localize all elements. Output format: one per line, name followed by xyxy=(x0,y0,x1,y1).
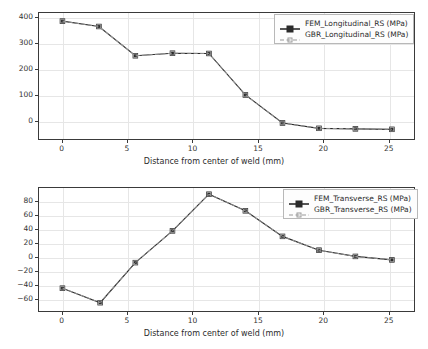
y-axis-tick-mark xyxy=(35,285,38,286)
y-axis-tick-mark xyxy=(35,43,38,44)
x-axis-tick-mark xyxy=(192,140,193,143)
y-axis-tick-mark xyxy=(35,229,38,230)
legend-item-gbr-transverse: GBR_Transverse_RS (MPa) xyxy=(288,204,412,215)
x-axis-tick-label: 5 xyxy=(125,317,130,325)
y-axis-tick-label: 200 xyxy=(19,65,33,73)
y-axis-tick-label: 100 xyxy=(19,91,33,99)
legend-swatch-gbr-longitudinal xyxy=(279,30,301,40)
x-axis-tick-mark xyxy=(62,312,63,315)
y-axis-tick-label: 20 xyxy=(23,239,33,247)
x-axis-tick-label: 10 xyxy=(188,145,198,153)
legend-label-fem-transverse: FEM_Transverse_RS (MPa) xyxy=(314,195,411,203)
y-axis-tick-label: −60 xyxy=(17,296,33,304)
y-axis-tick-label: 80 xyxy=(23,197,33,205)
x-axis-tick-mark xyxy=(389,140,390,143)
y-axis-tick-label: 60 xyxy=(23,211,33,219)
x-axis-tick-mark xyxy=(389,312,390,315)
y-axis-tick-label: −20 xyxy=(17,268,33,276)
y-axis-tick-mark xyxy=(35,299,38,300)
y-axis-tick-label: 0 xyxy=(28,253,33,261)
y-axis-tick-label: −40 xyxy=(17,282,33,290)
legend-swatch-gbr-transverse xyxy=(288,205,310,215)
x-axis-tick-mark xyxy=(323,140,324,143)
y-axis-tick-mark xyxy=(35,201,38,202)
y-axis-tick-mark xyxy=(35,257,38,258)
chart-panel-longitudinal: 0100200300400 0510152025 Distance from c… xyxy=(0,0,428,175)
x-axis-label-transverse: Distance from center of weld (mm) xyxy=(0,330,428,338)
legend-item-fem-transverse: FEM_Transverse_RS (MPa) xyxy=(288,193,412,204)
x-axis-tick-mark xyxy=(323,312,324,315)
y-axis-tick-mark xyxy=(35,95,38,96)
legend-label-fem-longitudinal: FEM_Longitudinal_RS (MPa) xyxy=(305,20,408,28)
legend-swatch-fem-transverse xyxy=(288,194,310,204)
x-axis-tick-mark xyxy=(258,140,259,143)
x-axis-tick-label: 15 xyxy=(253,145,263,153)
x-axis-tick-label: 20 xyxy=(319,145,329,153)
x-axis-tick-label: 25 xyxy=(384,145,394,153)
x-axis-tick-label: 20 xyxy=(319,317,329,325)
chart-panel-transverse: −60−40−20020406080 0510152025 Distance f… xyxy=(0,175,428,349)
x-axis-tick-label: 0 xyxy=(59,145,64,153)
x-axis-tick-label: 25 xyxy=(384,317,394,325)
y-axis-tick-mark xyxy=(35,121,38,122)
x-axis-tick-mark xyxy=(127,140,128,143)
legend-swatch-fem-longitudinal xyxy=(279,19,301,29)
x-axis-tick-mark xyxy=(62,140,63,143)
x-axis-tick-mark xyxy=(258,312,259,315)
x-axis-tick-mark xyxy=(127,312,128,315)
legend-item-fem-longitudinal: FEM_Longitudinal_RS (MPa) xyxy=(279,18,408,29)
x-axis-tick-label: 10 xyxy=(188,317,198,325)
legend-label-gbr-transverse: GBR_Transverse_RS (MPa) xyxy=(314,206,412,214)
y-axis-tick-mark xyxy=(35,243,38,244)
y-axis-tick-mark xyxy=(35,69,38,70)
figure-canvas: 0100200300400 0510152025 Distance from c… xyxy=(0,0,428,349)
y-axis-tick-label: 0 xyxy=(28,117,33,125)
y-axis-tick-label: 400 xyxy=(19,13,33,21)
legend-item-gbr-longitudinal: GBR_Longitudinal_RS (MPa) xyxy=(279,29,408,40)
y-axis-tick-mark xyxy=(35,215,38,216)
legend-longitudinal: FEM_Longitudinal_RS (MPa) GBR_Longitudin… xyxy=(274,14,414,44)
x-axis-tick-label: 5 xyxy=(125,145,130,153)
x-axis-tick-mark xyxy=(192,312,193,315)
y-axis-tick-label: 300 xyxy=(19,39,33,47)
legend-label-gbr-longitudinal: GBR_Longitudinal_RS (MPa) xyxy=(305,31,408,39)
x-axis-label-longitudinal: Distance from center of weld (mm) xyxy=(0,158,428,166)
x-axis-tick-label: 0 xyxy=(59,317,64,325)
y-axis-tick-label: 40 xyxy=(23,225,33,233)
x-axis-tick-label: 15 xyxy=(253,317,263,325)
y-axis-tick-mark xyxy=(35,17,38,18)
y-axis-tick-mark xyxy=(35,271,38,272)
legend-transverse: FEM_Transverse_RS (MPa) GBR_Transverse_R… xyxy=(283,189,418,219)
